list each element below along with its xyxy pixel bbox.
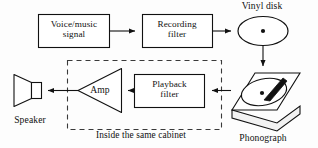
diagram-canvas: Voice/music signal Recording filter Viny… xyxy=(0,0,318,148)
speaker-shape xyxy=(14,75,42,107)
playback-filter-label: Playback filter xyxy=(134,80,205,99)
cabinet-group-label: Inside the same cabinet xyxy=(58,131,224,141)
vinyl-disk-label: Vinyl disk xyxy=(224,1,300,11)
speaker-label: Speaker xyxy=(2,115,58,125)
recording-filter-label: Recording filter xyxy=(142,20,212,39)
voice-signal-label: Voice/music signal xyxy=(38,20,110,39)
amp-label: Amp xyxy=(82,85,118,95)
phonograph-spindle-dot xyxy=(260,91,264,95)
phonograph-label: Phonograph xyxy=(222,133,304,143)
vinyl-disk-spindle-dot xyxy=(261,29,265,33)
phonograph-body xyxy=(232,73,300,131)
